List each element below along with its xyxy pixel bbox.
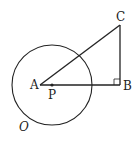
label-p: P — [48, 88, 56, 102]
point-p-dot — [50, 83, 53, 86]
label-a: A — [29, 78, 39, 92]
right-angle-marker — [114, 79, 120, 85]
label-b: B — [123, 79, 132, 93]
geometry-diagram: A P B C O — [0, 0, 136, 142]
segment-ac — [40, 25, 120, 85]
label-o: O — [19, 120, 29, 134]
label-c: C — [116, 10, 125, 24]
